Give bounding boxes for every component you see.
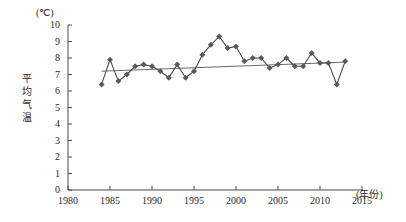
x-tick-label-1980: 1980 xyxy=(48,196,88,206)
x-axis-ticks xyxy=(68,186,362,190)
x-tick-label-2010: 2010 xyxy=(300,196,340,206)
y-tick-label-5: 5 xyxy=(42,103,60,113)
temperature-line-chart: (℃) 平 均 气 温 (年份) 012345678910 1980198519… xyxy=(0,0,406,222)
data-point xyxy=(250,55,256,61)
x-tick-label-1985: 1985 xyxy=(90,196,130,206)
x-tick-label-1995: 1995 xyxy=(174,196,214,206)
x-tick-label-2015: 2015 xyxy=(342,196,382,206)
data-point xyxy=(325,60,331,66)
data-point xyxy=(149,63,155,69)
y-tick-label-8: 8 xyxy=(42,53,60,63)
y-tick-label-1: 1 xyxy=(42,169,60,179)
x-tick-label-1990: 1990 xyxy=(132,196,172,206)
y-tick-label-0: 0 xyxy=(42,185,60,195)
series-line xyxy=(102,37,346,85)
data-point xyxy=(107,57,113,63)
y-tick-label-10: 10 xyxy=(42,20,60,30)
y-tick-label-7: 7 xyxy=(42,70,60,80)
trend-line xyxy=(102,62,346,71)
y-tick-label-9: 9 xyxy=(42,37,60,47)
data-point xyxy=(241,58,247,64)
data-point xyxy=(334,81,340,87)
y-tick-label-4: 4 xyxy=(42,119,60,129)
y-tick-label-2: 2 xyxy=(42,152,60,162)
y-tick-label-6: 6 xyxy=(42,86,60,96)
data-point xyxy=(174,62,180,68)
data-point xyxy=(342,58,348,64)
data-point xyxy=(141,62,147,68)
data-point xyxy=(99,81,105,87)
x-tick-label-2000: 2000 xyxy=(216,196,256,206)
y-axis-ticks xyxy=(68,25,72,190)
y-tick-label-3: 3 xyxy=(42,136,60,146)
x-tick-label-2005: 2005 xyxy=(258,196,298,206)
axis-lines xyxy=(68,25,362,190)
plot-canvas xyxy=(0,0,406,222)
data-point xyxy=(233,43,239,49)
